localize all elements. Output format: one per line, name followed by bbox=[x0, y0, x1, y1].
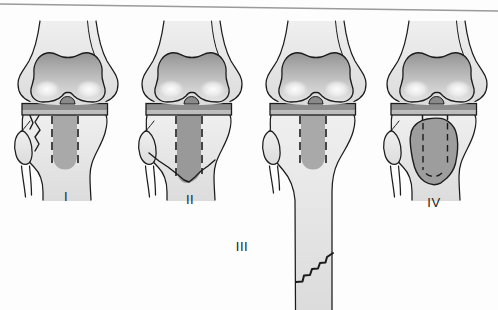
knee-diagram-type-iii bbox=[256, 20, 376, 310]
knee-diagram-type-i bbox=[8, 20, 128, 205]
top-border-rule bbox=[0, 0, 498, 16]
figure-label-type-ii: II bbox=[186, 193, 194, 206]
tibial-stem bbox=[52, 114, 78, 170]
femur bbox=[266, 21, 366, 105]
figure-label-type-iv: IV bbox=[427, 196, 440, 209]
stem-with-fragment bbox=[177, 114, 201, 183]
femur bbox=[18, 21, 118, 105]
tibial-tray bbox=[146, 104, 232, 116]
knee-diagram-type-ii bbox=[132, 20, 252, 205]
tibial-tray bbox=[22, 104, 108, 116]
femur bbox=[387, 21, 487, 105]
tibial-tray bbox=[270, 104, 356, 116]
femur bbox=[142, 21, 242, 105]
figure-label-type-i: I bbox=[64, 190, 68, 203]
knee-diagram-type-iv bbox=[377, 20, 497, 205]
figure-label-type-iii: III bbox=[236, 240, 248, 253]
tibial-tray bbox=[391, 104, 477, 116]
periprosthetic-tibial-fracture-classification-diagram: I II III IV bbox=[0, 0, 498, 310]
tibial-stem bbox=[300, 114, 326, 170]
bone-fragment-around-stem bbox=[410, 118, 458, 184]
